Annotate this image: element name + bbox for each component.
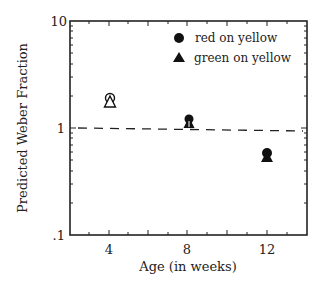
x-tick-label-8: 8 bbox=[183, 242, 191, 257]
x-tick-label-4: 4 bbox=[105, 242, 113, 257]
legend-label-red-on-yellow: red on yellow bbox=[195, 31, 278, 45]
x-tick-label-12: 12 bbox=[259, 242, 276, 257]
y-axis-title: Predicted Weber Fraction bbox=[15, 42, 30, 213]
y-tick-label-0.1: .1 bbox=[53, 228, 65, 243]
y-tick-label-10: 10 bbox=[50, 14, 67, 29]
reference-line-dashed bbox=[78, 128, 303, 131]
legend-triangle-icon bbox=[173, 52, 185, 62]
legend: red on yellow green on yellow bbox=[173, 31, 292, 65]
x-axis-title: Age (in weeks) bbox=[138, 259, 236, 274]
y-tick-label-1: 1 bbox=[57, 121, 65, 136]
weber-fraction-chart: 10 1 .1 4 8 12 Age (in weeks) Predicted … bbox=[0, 0, 324, 289]
legend-label-green-on-yellow: green on yellow bbox=[194, 51, 292, 65]
legend-circle-icon bbox=[174, 33, 184, 43]
